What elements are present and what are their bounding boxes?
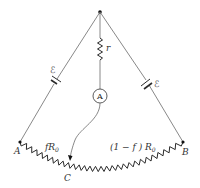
- left-emf-label: ℰ: [50, 65, 56, 75]
- sliding-contact-arrow-icon: [68, 155, 73, 161]
- sliding-contact-wire: [70, 103, 100, 158]
- left-wire-lower: [20, 84, 54, 142]
- right-segment-main: (1 − f ) R: [110, 142, 152, 152]
- left-wire-upper: [57, 12, 100, 79]
- point-b-label: B: [181, 147, 189, 157]
- ammeter-label: A: [96, 92, 103, 101]
- right-segment-subscript: 0: [152, 146, 156, 153]
- point-b-dot: [181, 140, 184, 143]
- point-c-label: C: [64, 173, 71, 183]
- right-emf-label: ℰ: [154, 79, 160, 89]
- left-segment-main: fR: [44, 142, 55, 152]
- resistor-r-icon: [98, 38, 103, 60]
- right-wire-lower: [149, 85, 183, 142]
- point-a-dot: [18, 140, 21, 143]
- left-segment-subscript: 0: [55, 146, 59, 153]
- point-a-label: A: [13, 146, 21, 156]
- resistor-r-label: r: [106, 43, 111, 53]
- left-segment-label: fR0: [44, 142, 59, 153]
- left-battery-icon: [51, 76, 61, 84]
- right-segment-label: (1 − f ) R0: [110, 142, 156, 153]
- circuit-diagram: ℰ ℰ r A A B C fR0 (1 − f ) R0: [0, 0, 200, 188]
